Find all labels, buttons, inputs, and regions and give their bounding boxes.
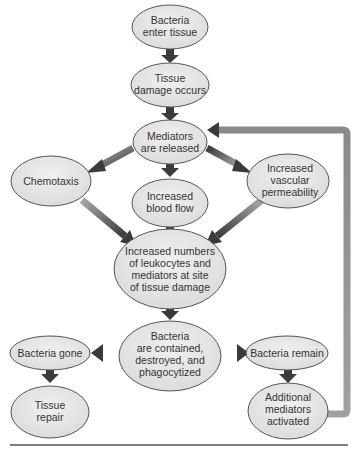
svg-text:Bacteria gone: Bacteria gone	[18, 347, 83, 359]
svg-text:Tissuerepair: Tissuerepair	[35, 399, 66, 423]
node-tissue-damage-occurs: Tissuedamage occurs	[131, 63, 209, 107]
svg-text:Bacteria remain: Bacteria remain	[250, 347, 324, 359]
svg-text:Mediatorsare released: Mediatorsare released	[141, 130, 200, 154]
arrow-n10-n12	[279, 370, 297, 383]
svg-text:Increasedblood flow: Increasedblood flow	[146, 190, 194, 214]
node-bacteria-remain: Bacteria remain	[246, 336, 328, 370]
inflammation-flowchart: Bacteriaenter tissue Tissuedamage occurs…	[0, 0, 358, 450]
arrow-n8-n9	[91, 344, 120, 362]
node-additional-mediators: Additionalmediatorsactivated	[248, 383, 328, 439]
arrow-n2-n3	[161, 107, 179, 121]
node-bacteria-enter-tissue: Bacteriaenter tissue	[132, 5, 208, 49]
node-increased-leukocytes: Increased numbersof leukocytes andmediat…	[114, 229, 226, 309]
svg-text:Additionalmediatorsactivated: Additionalmediatorsactivated	[265, 391, 311, 427]
arrow-n1-n2	[161, 49, 179, 63]
svg-text:Chemotaxis: Chemotaxis	[23, 175, 78, 187]
node-increased-blood-flow: Increasedblood flow	[132, 179, 208, 227]
svg-text:Bacteriaenter tissue: Bacteriaenter tissue	[143, 14, 197, 38]
arrow-n3-n6	[207, 148, 252, 173]
arrow-n6-n7	[205, 200, 262, 246]
node-chemotaxis: Chemotaxis	[11, 156, 91, 206]
arrow-n9-n11	[41, 370, 59, 383]
arrow-n8-n10	[221, 344, 249, 362]
node-mediators-released: Mediatorsare released	[133, 120, 207, 164]
arrow-n3-n4	[86, 148, 133, 173]
node-increased-vascular-permeability: Increasedvascularpermeability	[247, 154, 329, 208]
node-tissue-repair: Tissuerepair	[11, 386, 89, 438]
node-bacteria-gone: Bacteria gone	[10, 336, 90, 370]
node-bacteria-contained: Bacteriaare contained,destroyed, andphag…	[119, 321, 221, 391]
arrow-n3-n5	[161, 164, 179, 177]
svg-text:Increased numbersof leukocytes: Increased numbersof leukocytes andmediat…	[125, 245, 215, 293]
arrow-n4-n7	[82, 200, 136, 246]
